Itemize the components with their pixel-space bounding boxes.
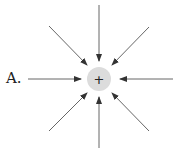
field-line-bottom-right [112, 93, 149, 131]
field-line-top-left [49, 26, 87, 65]
charge-symbol: + [94, 72, 105, 87]
electric-field-diagram: + [0, 0, 182, 154]
field-line-top-right [112, 27, 149, 65]
field-line-bottom-left [49, 93, 87, 131]
